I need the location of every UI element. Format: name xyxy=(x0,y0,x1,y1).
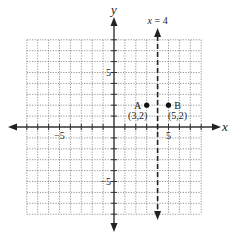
point-label-a: A xyxy=(134,100,142,111)
x-tick-label: 5 xyxy=(166,130,171,141)
line-label: x = 4 xyxy=(147,15,168,26)
coordinate-plane: x = 4 A(3,2)B(5,2)−555−5xy xyxy=(0,0,231,236)
x-tick-label: −5 xyxy=(54,130,65,141)
y-axis-label: y xyxy=(109,2,117,17)
dashed-line-bottom-arrow-icon xyxy=(154,211,161,220)
x-axis-left-arrow-icon xyxy=(8,124,17,131)
axes xyxy=(8,17,221,232)
x-axis-label: x xyxy=(221,119,228,134)
x-axis-right-arrow-icon xyxy=(212,124,221,131)
point-label-b: B xyxy=(174,100,181,111)
y-axis-top-arrow-icon xyxy=(111,17,118,26)
y-axis-bottom-arrow-icon xyxy=(111,223,118,232)
labels: A(3,2)B(5,2)−555−5xy xyxy=(54,2,228,187)
y-tick-label: −5 xyxy=(100,176,111,187)
point-b xyxy=(166,103,171,108)
vertical-line-x-equals-4: x = 4 xyxy=(147,15,168,220)
point-coord-label-b: (5,2) xyxy=(168,110,187,122)
point-a xyxy=(144,103,149,108)
point-coord-label-a: (3,2) xyxy=(128,110,147,122)
y-tick-label: 5 xyxy=(106,67,111,78)
dashed-line-top-arrow-icon xyxy=(154,28,161,37)
